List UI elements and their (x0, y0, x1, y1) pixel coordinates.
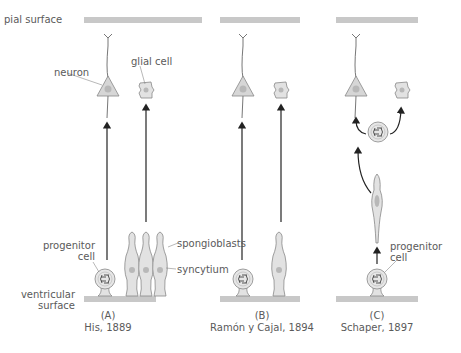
progenitor-cell-b (233, 269, 253, 296)
progenitor-cell-a (95, 269, 115, 296)
pial-surface-label: pial surface (4, 14, 62, 25)
panel-c-letter: (C) (352, 310, 402, 321)
progenitor-label-a-1: progenitor (43, 240, 95, 251)
ventricular-surface-label-2: surface (38, 300, 75, 311)
glial-cell-a (139, 82, 154, 98)
spongioblast-1 (125, 232, 140, 296)
migrating-cell-c (372, 174, 383, 243)
glial-cell-b (274, 82, 289, 98)
panel-b-letter: (B) (237, 310, 287, 321)
panel-a-letter: (A) (83, 310, 133, 321)
ventricular-surface-bar-c (336, 296, 418, 302)
glial-cell-label: glial cell (131, 56, 172, 67)
spongioblasts-label: spongioblasts (177, 238, 246, 249)
pial-surface-bar-b (220, 17, 300, 23)
pial-surface-bar-c (336, 17, 418, 23)
progenitor-label-c-1: progenitor (390, 241, 442, 252)
glial-cell-c (395, 82, 410, 98)
syncytium-label: syncytium (177, 264, 229, 275)
ventricular-surface-bar-a (84, 296, 156, 302)
pial-surface-bar-a (84, 17, 202, 23)
panel-b-caption: Ramón y Cajal, 1894 (207, 322, 317, 333)
neuron-c (345, 34, 367, 118)
panel-c-caption: Schaper, 1897 (332, 322, 422, 333)
ventricular-surface-bar-b (220, 296, 300, 302)
panel-a-caption: His, 1889 (73, 322, 143, 333)
spongioblast-2 (139, 232, 154, 296)
dividing-cell-c (368, 122, 388, 142)
progenitor-label-c-2: cell (390, 252, 407, 263)
spongioblast-b (272, 232, 287, 296)
progenitor-label-a-2: cell (78, 251, 95, 262)
neuron-b (232, 34, 254, 118)
neuron-label: neuron (54, 67, 89, 78)
ventricular-surface-label-1: ventricular (21, 289, 75, 300)
progenitor-cell-c (367, 269, 387, 296)
spongioblast-3 (153, 232, 168, 296)
neuron-a (97, 34, 119, 118)
